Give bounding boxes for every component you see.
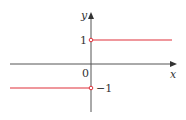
open-point-lower	[89, 86, 93, 90]
graph: y x 0 1 −1	[0, 0, 186, 120]
x-axis-arrow-icon	[170, 61, 177, 67]
x-axis-label: x	[170, 68, 177, 81]
y-axis-arrow-icon	[88, 12, 94, 19]
y-tick-neg-1: −1	[96, 82, 112, 95]
y-tick-1: 1	[80, 34, 87, 47]
open-point-upper	[89, 38, 93, 42]
origin-label: 0	[82, 67, 89, 80]
y-axis-label: y	[80, 9, 88, 22]
